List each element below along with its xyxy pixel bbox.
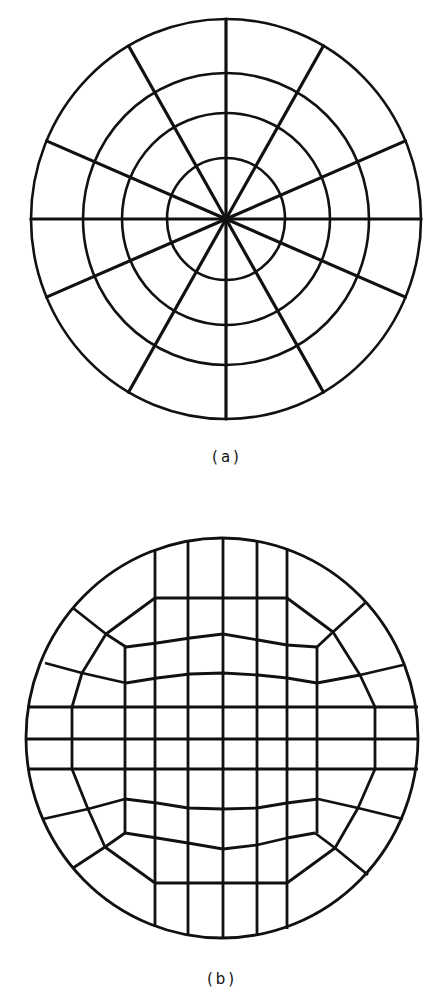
center-node — [223, 216, 229, 222]
caption-a: (a) — [197, 448, 257, 466]
mesh-figure — [0, 0, 447, 1000]
caption-b: (b) — [192, 970, 252, 988]
